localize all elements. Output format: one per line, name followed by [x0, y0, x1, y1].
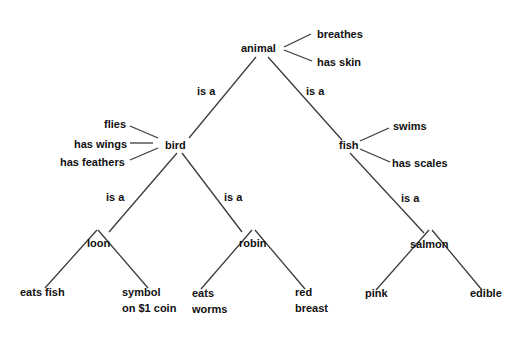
edge-label-salmon-fish: is a: [401, 191, 419, 205]
node-bird: bird: [165, 138, 186, 152]
property-has-scales: has scales: [392, 156, 448, 170]
line-fish-has-scales: [360, 149, 390, 162]
property-swims: swims: [393, 119, 427, 133]
line-animal-has-skin: [284, 50, 312, 61]
line-bird-has-feathers: [130, 148, 158, 160]
property-eats-fish: eats fish: [20, 285, 65, 299]
node-animal: animal: [241, 41, 276, 55]
edge-label-fish-animal: is a: [306, 84, 324, 98]
edge-label-loon-bird: is a: [106, 190, 124, 204]
node-loon: loon: [87, 236, 110, 250]
line-bird-flies: [130, 126, 158, 138]
line-fish-swims: [360, 128, 389, 141]
property-breathes: breathes: [317, 27, 363, 41]
property-flies: flies: [104, 117, 126, 131]
node-robin: robin: [239, 236, 267, 250]
node-fish: fish: [339, 138, 359, 152]
property-pink: pink: [365, 286, 388, 300]
property-symbol-on-coin: symbol on $1 coin: [122, 284, 176, 316]
property-red-breast: red breast: [295, 284, 328, 316]
property-has-wings: has wings: [74, 137, 127, 151]
property-has-feathers: has feathers: [60, 155, 125, 169]
edge-label-bird-animal: is a: [197, 84, 215, 98]
property-edible: edible: [470, 286, 502, 300]
edge-label-robin-bird: is a: [224, 190, 242, 204]
semantic-network-diagram: animal bird fish loon robin salmon is a …: [0, 0, 525, 353]
line-animal-breathes: [284, 34, 311, 47]
node-salmon: salmon: [410, 237, 449, 251]
line-animal-fish: [268, 57, 342, 140]
property-eats-worms: eats worms: [192, 285, 227, 317]
property-has-skin: has skin: [317, 55, 361, 69]
